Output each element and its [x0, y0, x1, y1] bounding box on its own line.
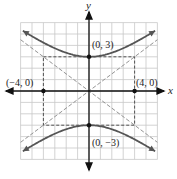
x-axis-label: x — [167, 84, 173, 96]
co-vertex-right-label: (4, 0) — [136, 77, 158, 89]
y-axis-label: y — [85, 0, 91, 11]
co-vertex-left-label: (−4, 0) — [6, 77, 33, 89]
vertex-top-label: (0, 3) — [92, 39, 114, 51]
hyperbola-graph: y x (0, 3) (0, −3) (−4, 0) (4, 0) — [0, 0, 177, 179]
vertex-bottom-label: (0, −3) — [92, 137, 119, 149]
